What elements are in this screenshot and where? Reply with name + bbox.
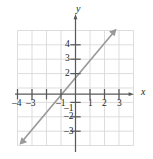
x-tick-label-3: 3 — [117, 99, 122, 109]
x-tick-label-1: 1 — [88, 99, 93, 109]
x-axis-label: x — [141, 87, 145, 97]
y-tick-label-3: 3 — [65, 54, 70, 64]
graph-figure: –4 –3 –1 1 2 3 4 3 2 –1 –2 –3 y x — [0, 0, 153, 159]
y-tick-label-neg3: –3 — [64, 127, 74, 137]
x-tick-label-neg3: –3 — [26, 99, 36, 109]
coordinate-plane — [0, 0, 153, 159]
y-tick-label-2: 2 — [65, 69, 70, 79]
x-tick-label-2: 2 — [102, 99, 107, 109]
x-tick-label-neg4: –4 — [12, 99, 22, 109]
y-axis-label: y — [76, 4, 80, 14]
y-tick-label-neg2: –2 — [64, 112, 74, 122]
y-tick-label-4: 4 — [65, 40, 70, 50]
